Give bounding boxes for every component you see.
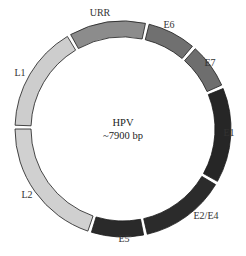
segment-e2-e4 — [144, 176, 216, 234]
label-e7: E7 — [204, 57, 215, 68]
label-e1: E1 — [223, 127, 234, 138]
genome-size: ~7900 bp — [103, 130, 143, 141]
hpv-genome-map: URRE6E7E1E2/E4E5L2L1 HPV ~7900 bp — [0, 0, 246, 256]
label-e2-e4: E2/E4 — [194, 210, 219, 221]
label-l1: L1 — [14, 67, 25, 78]
label-e5: E5 — [118, 233, 129, 244]
label-l2: L2 — [21, 189, 32, 200]
label-urr: URR — [90, 7, 111, 18]
segment-e7 — [185, 49, 222, 92]
segment-l2 — [15, 129, 93, 231]
segment-l1 — [15, 36, 76, 125]
label-e6: E6 — [163, 19, 174, 30]
genome-segments — [15, 21, 231, 237]
genome-title: HPV — [112, 117, 133, 128]
segment-urr — [71, 21, 146, 49]
